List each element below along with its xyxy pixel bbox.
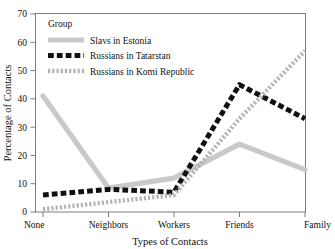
legend-entry-label: Slavs in Estonia xyxy=(90,36,152,46)
y-tick-label: 70 xyxy=(18,9,28,19)
x-tick-label: Friends xyxy=(225,220,254,230)
x-axis-ticks: NoneNeighborsWorkersFriendsFamily xyxy=(24,212,331,230)
y-tick-label: 0 xyxy=(22,207,27,217)
x-tick-label: Workers xyxy=(158,220,190,230)
y-tick-label: 30 xyxy=(18,123,28,133)
plot-frame xyxy=(36,14,306,213)
y-tick-label: 20 xyxy=(18,151,28,161)
y-axis-title: Percentage of Contacts xyxy=(2,65,13,162)
legend-entry-label: Russians in Komi Republic xyxy=(90,67,194,77)
y-tick-label: 10 xyxy=(18,179,28,189)
x-tick-label: Family xyxy=(304,220,331,230)
series-line xyxy=(43,96,305,188)
x-axis-title: Types of Contacts xyxy=(132,236,208,247)
x-tick-label: None xyxy=(24,220,45,230)
y-tick-label: 50 xyxy=(18,66,28,76)
legend-title: Group xyxy=(48,19,73,29)
y-axis-ticks: 010203040506070 xyxy=(18,9,36,217)
y-tick-label: 40 xyxy=(18,94,28,104)
x-tick-label: Neighbors xyxy=(89,220,129,230)
chart-container: 010203040506070 NoneNeighborsWorkersFrie… xyxy=(0,0,335,249)
y-tick-label: 60 xyxy=(18,38,28,48)
legend: Group Slavs in EstoniaRussians in Tatars… xyxy=(48,19,194,77)
legend-entry-label: Russians in Tatarstan xyxy=(90,51,171,61)
line-chart: 010203040506070 NoneNeighborsWorkersFrie… xyxy=(0,0,335,249)
